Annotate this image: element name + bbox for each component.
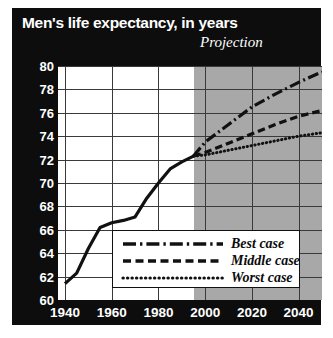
y-axis-tick: 80 [24, 60, 54, 73]
legend-label-middle: Middle case [231, 253, 300, 269]
series-line-middle-case [194, 110, 323, 156]
y-axis-tick: 72 [24, 154, 54, 167]
y-axis-tick: 68 [24, 200, 54, 213]
legend-label-best: Best case [231, 236, 284, 252]
legend-label-worst: Worst case [231, 270, 293, 286]
chart-legend: Best case Middle case Worst case [112, 230, 300, 288]
legend-swatch-middle [121, 252, 225, 270]
y-axis-tick: 66 [24, 224, 54, 237]
x-axis-tick: 2040 [269, 305, 329, 320]
y-axis-tick: 62 [24, 271, 54, 284]
y-axis-tick: 70 [24, 177, 54, 190]
legend-item-best: Best case [113, 235, 299, 253]
chart-figure: Men's life expectancy, in years Projecti… [0, 0, 333, 338]
y-axis-labels: 8078767472706866646260 [18, 66, 54, 300]
y-axis-tick: 76 [24, 107, 54, 120]
legend-item-worst: Worst case [113, 269, 299, 287]
y-axis-tick: 64 [24, 247, 54, 260]
projection-annotation: Projection [200, 34, 263, 51]
y-axis-tick: 78 [24, 83, 54, 96]
legend-swatch-worst [121, 269, 225, 287]
legend-swatch-best [121, 235, 225, 253]
legend-item-middle: Middle case [113, 252, 299, 270]
chart-panel: Men's life expectancy, in years Projecti… [12, 8, 321, 325]
x-axis-labels: 194019601980200020202040 [58, 305, 322, 325]
page-title: Men's life expectancy, in years [22, 14, 238, 32]
y-axis-tick: 74 [24, 130, 54, 143]
